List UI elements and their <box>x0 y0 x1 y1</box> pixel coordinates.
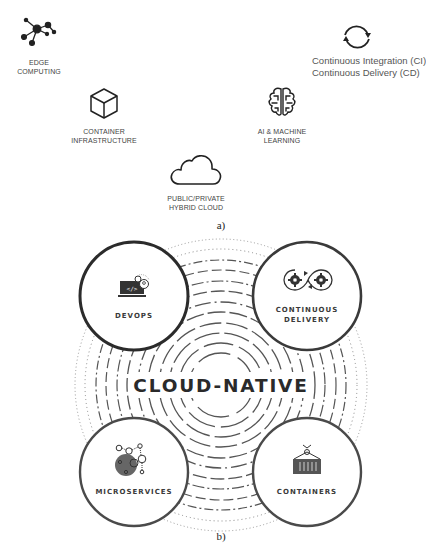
gears-infinity-icon <box>282 267 334 293</box>
microservices-label: MICROSERVICES <box>95 487 172 497</box>
label-line: DELIVERY <box>276 315 339 325</box>
shipping-container-icon <box>291 443 323 479</box>
panel-b-caption: b) <box>216 530 225 542</box>
microservices-bubbles-icon <box>112 443 152 479</box>
ripple-rings <box>0 0 426 557</box>
cloud-native-title: CLOUD-NATIVE <box>133 375 308 396</box>
containers-label: CONTAINERS <box>277 487 337 497</box>
svg-text:</>: </> <box>127 285 138 292</box>
label-line: CONTINUOUS <box>276 305 339 315</box>
devops-label: DEVOPS <box>115 311 153 321</box>
continuous-delivery-label: CONTINUOUS DELIVERY <box>276 305 339 325</box>
laptop-code-icon: </> <box>117 271 155 299</box>
